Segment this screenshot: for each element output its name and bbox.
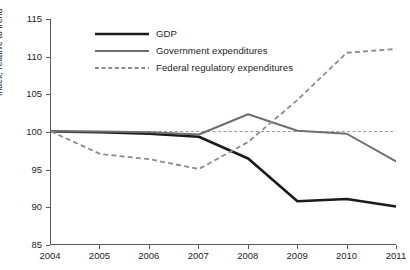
series-line-gdp [51, 132, 396, 207]
legend-item[interactable]: Federal regulatory expenditures [95, 59, 345, 76]
x-axis-tick-mark [297, 245, 298, 249]
x-axis-tick-label: 2009 [275, 250, 319, 261]
chart-legend: GDPGovernment expendituresFederal regula… [95, 25, 345, 76]
legend-swatch-government-expenditures [95, 46, 149, 56]
x-axis-tick-label: 2008 [226, 250, 270, 261]
legend-item[interactable]: GDP [95, 25, 345, 42]
x-axis-tick-mark [248, 245, 249, 249]
legend-label: Federal regulatory expenditures [156, 62, 293, 73]
x-axis-tick-label: 2004 [28, 250, 72, 261]
x-axis-tick-mark [396, 245, 397, 249]
x-axis-tick-label: 2011 [374, 250, 410, 261]
legend-label: GDP [156, 28, 177, 39]
legend-swatch-gdp [95, 29, 149, 39]
legend-swatch-federal-regulatory-expenditures [95, 63, 149, 73]
x-axis-tick-label: 2005 [77, 250, 121, 261]
chart-container: Index, relative to trend 859095100105110… [0, 0, 410, 270]
x-axis-tick-mark [347, 245, 348, 249]
x-axis-tick-mark [99, 245, 100, 249]
x-axis-tick-mark [198, 245, 199, 249]
legend-label: Government expenditures [156, 45, 268, 56]
legend-item[interactable]: Government expenditures [95, 42, 345, 59]
x-axis-tick-mark [149, 245, 150, 249]
x-axis-tick-label: 2006 [127, 250, 171, 261]
x-axis-tick-label: 2007 [176, 250, 220, 261]
x-axis-tick-label: 2010 [325, 250, 369, 261]
series-line-government-expenditures [51, 114, 396, 161]
